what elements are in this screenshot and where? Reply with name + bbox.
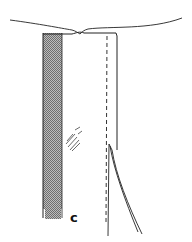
figure-label: c bbox=[70, 210, 78, 225]
stitch-line bbox=[106, 36, 107, 222]
diagram-canvas bbox=[0, 0, 192, 242]
top-fabric-edge bbox=[10, 18, 182, 34]
slit-opening bbox=[108, 144, 142, 236]
shaded-facing-strip bbox=[43, 33, 62, 209]
pressing-mark bbox=[66, 127, 82, 151]
